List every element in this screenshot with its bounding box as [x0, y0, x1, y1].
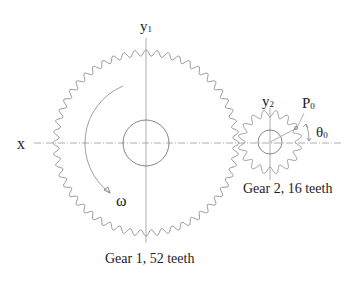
rotation-arrow-arc — [85, 86, 123, 193]
p0-leader-line — [297, 113, 304, 128]
gear-2-label: Gear 2, 16 teeth — [243, 181, 332, 196]
gear-diagram: x y1 y2 P0 θ0 ω Gear 1, 52 teeth Gear 2,… — [0, 0, 350, 283]
y2-axis-label: y2 — [262, 93, 274, 109]
p0-label: P0 — [302, 95, 315, 111]
p0-radius-line — [270, 128, 297, 142]
x-axis-label: x — [17, 135, 25, 152]
theta0-label: θ0 — [316, 124, 328, 140]
gear-1-label: Gear 1, 52 teeth — [105, 251, 194, 266]
omega-label: ω — [116, 192, 127, 209]
y1-axis-label: y1 — [140, 18, 152, 34]
